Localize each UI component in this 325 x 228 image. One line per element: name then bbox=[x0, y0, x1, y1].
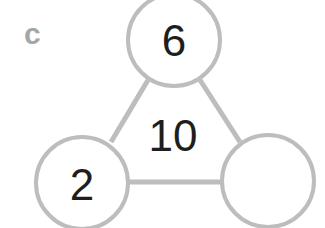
problem-label: c bbox=[24, 17, 41, 50]
edge-top-right bbox=[200, 80, 240, 142]
node-top-value: 6 bbox=[162, 16, 186, 65]
node-bottom-right-circle[interactable] bbox=[222, 135, 314, 227]
center-total: 10 bbox=[149, 111, 198, 160]
edge-top-left bbox=[111, 80, 148, 142]
number-triangle-diagram: c 6 10 2 bbox=[0, 0, 325, 228]
node-bottom-left-value: 2 bbox=[70, 160, 94, 209]
